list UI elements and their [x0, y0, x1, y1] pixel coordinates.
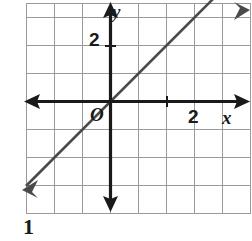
grid-lines [26, 3, 251, 214]
y-tick-label-2: 2 [89, 30, 100, 49]
x-tick-label-2: 2 [188, 107, 199, 126]
y-axis-label: y [112, 2, 120, 21]
figure-root: . [0, 0, 252, 241]
x-axis [24, 94, 250, 109]
coordinate-plot-svg [0, 0, 252, 216]
x-axis-label: x [222, 108, 232, 127]
figure-caption: 1 [23, 215, 34, 239]
coordinate-plot: y x 2 2 O [0, 0, 252, 216]
origin-label: O [90, 105, 104, 124]
graphed-line [22, 0, 250, 198]
